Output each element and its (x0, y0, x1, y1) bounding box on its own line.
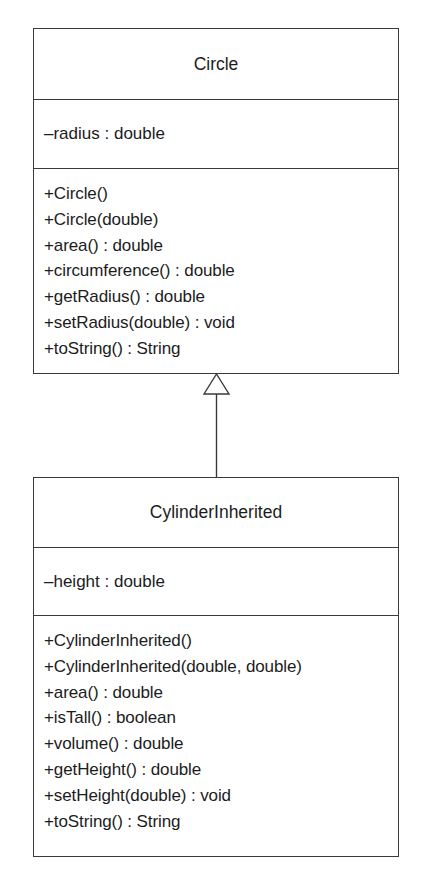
operation: +getRadius() : double (44, 284, 398, 310)
operation: +volume() : double (44, 731, 398, 757)
operation: +toString() : String (44, 336, 398, 362)
class-box-cylinder-inherited: CylinderInherited –height : double +Cyli… (33, 477, 399, 857)
class-name-compartment: Circle (34, 29, 398, 99)
class-name-compartment: CylinderInherited (34, 478, 398, 547)
operation: +isTall() : boolean (44, 705, 398, 731)
operation: +getHeight() : double (44, 757, 398, 783)
hollow-triangle-arrow-icon (204, 374, 229, 394)
class-name: Circle (194, 54, 239, 75)
operations-compartment: +Circle() +Circle(double) +area() : doub… (34, 168, 398, 362)
attribute: –radius : double (44, 124, 165, 144)
attribute: –height : double (44, 572, 165, 592)
operation: +toString() : String (44, 809, 398, 835)
operation: +CylinderInherited(double, double) (44, 654, 398, 680)
class-name: CylinderInherited (150, 502, 282, 523)
operation: +area() : double (44, 680, 398, 706)
operation: +area() : double (44, 233, 398, 259)
operation: +setRadius(double) : void (44, 310, 398, 336)
operation: +setHeight(double) : void (44, 783, 398, 809)
operations-compartment: +CylinderInherited() +CylinderInherited(… (34, 615, 398, 834)
operation: +Circle(double) (44, 207, 398, 233)
operation: +circumference() : double (44, 258, 398, 284)
class-box-circle: Circle –radius : double +Circle() +Circl… (33, 28, 399, 374)
attributes-compartment: –height : double (34, 547, 398, 615)
attributes-compartment: –radius : double (34, 99, 398, 168)
operation: +CylinderInherited() (44, 628, 398, 654)
operation: +Circle() (44, 181, 398, 207)
